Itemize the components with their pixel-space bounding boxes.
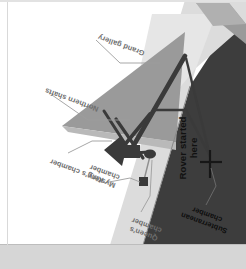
pyramid-diagram-stage: Grand gallery Northern shafts King's cha… (0, 0, 246, 269)
page-frame-bottom-rule (0, 244, 246, 245)
diagram-screenshot: Grand gallery Northern shafts King's cha… (0, 0, 246, 269)
page-frame-left-rule (7, 0, 8, 245)
label-rover-started-here: Rover started here (178, 112, 199, 184)
mystery-chamber-marker (139, 177, 148, 186)
label-rover-started-line2: here (188, 138, 199, 159)
page-frame-bottom-band (0, 245, 246, 269)
page-frame-top-rule (0, 0, 246, 2)
page-frame-left-band (0, 0, 7, 245)
label-rover-started-line1: Rover started (177, 116, 188, 179)
queens-chamber-marker (144, 149, 156, 158)
